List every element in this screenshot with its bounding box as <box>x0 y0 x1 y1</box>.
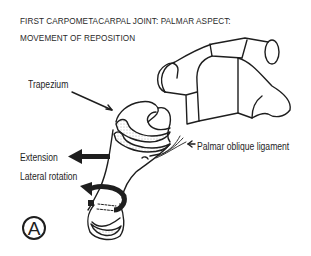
panel-label-badge: A <box>22 216 46 240</box>
label-palmar-oblique-ligament: Palmar oblique ligament <box>197 141 289 152</box>
lateral-rotation-arrow <box>80 182 124 210</box>
trapezium-pointer <box>72 92 112 110</box>
anatomy-illustration <box>0 0 311 256</box>
label-extension: Extension <box>20 152 58 163</box>
extension-arrow <box>68 149 110 164</box>
label-lateral-rotation: Lateral rotation <box>20 171 77 182</box>
carpal-bones <box>158 38 291 124</box>
label-trapezium: Trapezium <box>28 79 68 90</box>
